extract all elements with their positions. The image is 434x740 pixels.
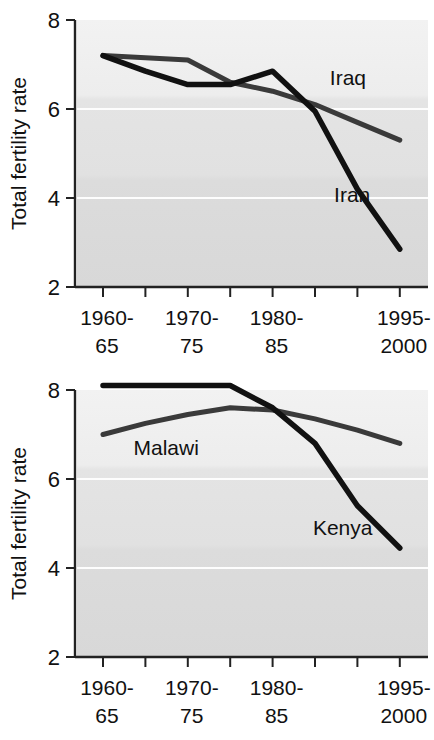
y-tick-label-2: 2 <box>48 275 60 300</box>
chart-panel-kenya-malawi: 24681960-651970-751980-851995-2000Total … <box>0 370 434 740</box>
x-tick-label-line2-2: 75 <box>180 704 203 727</box>
x-tick-label-line1-7: 1995- <box>377 306 431 329</box>
series-label-iraq: Iraq <box>330 66 366 89</box>
series-label-iran: Iran <box>334 183 370 206</box>
x-tick-label-line2-4: 85 <box>265 704 288 727</box>
y-axis-title: Total fertility rate <box>7 77 30 230</box>
series-label-malawi: Malawi <box>134 436 199 459</box>
y-axis-title: Total fertility rate <box>7 447 30 600</box>
chart-panel-iran-iraq: 24681960-651970-751980-851995-2000Total … <box>0 0 434 370</box>
line-chart-kenya-malawi: 24681960-651970-751980-851995-2000Total … <box>0 370 434 740</box>
y-tick-label-2: 2 <box>48 645 60 670</box>
x-tick-label-line1-4: 1980- <box>250 676 304 699</box>
y-tick-label-6: 6 <box>48 97 60 122</box>
x-tick-label-line1-2: 1970- <box>165 306 219 329</box>
x-tick-label-line2-4: 85 <box>265 334 288 357</box>
x-tick-label-line2-7: 2000 <box>380 334 427 357</box>
y-tick-label-8: 8 <box>48 8 60 33</box>
x-tick-label-line1-0: 1960- <box>80 676 134 699</box>
x-tick-label-line1-7: 1995- <box>377 676 431 699</box>
x-tick-label-line2-7: 2000 <box>380 704 427 727</box>
line-chart-iran-iraq: 24681960-651970-751980-851995-2000Total … <box>0 0 434 370</box>
y-tick-label-6: 6 <box>48 467 60 492</box>
x-tick-label-line2-2: 75 <box>180 334 203 357</box>
plot-background <box>77 20 428 287</box>
x-tick-label-line2-0: 65 <box>95 704 118 727</box>
x-tick-label-line2-0: 65 <box>95 334 118 357</box>
x-tick-label-line1-4: 1980- <box>250 306 304 329</box>
x-tick-label-line1-0: 1960- <box>80 306 134 329</box>
series-label-kenya: Kenya <box>313 516 373 539</box>
y-tick-label-4: 4 <box>48 186 60 211</box>
y-tick-label-8: 8 <box>48 378 60 403</box>
y-tick-label-4: 4 <box>48 556 60 581</box>
x-tick-label-line1-2: 1970- <box>165 676 219 699</box>
